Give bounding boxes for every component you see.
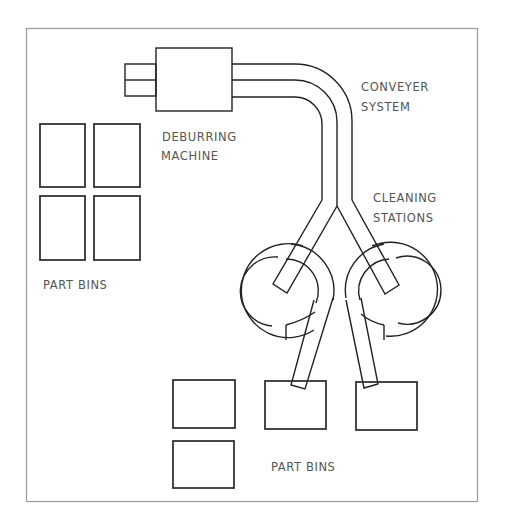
conveyer-center-rail <box>232 80 337 206</box>
deburring-machine-body <box>156 48 232 111</box>
conveyer-label-line2: SYSTEM <box>361 100 410 114</box>
part-bins-left-label: PART BINS <box>43 278 107 292</box>
cleaning-station-left-outer-ring <box>241 244 314 338</box>
conveyer-label-line1: CONVEYER <box>361 80 429 94</box>
cleaning-station-left <box>240 244 334 389</box>
part-bin <box>40 124 85 187</box>
layout-diagram: CONVEYER SYSTEM DEBURRING MACHINE CLEANI… <box>0 0 505 530</box>
cleaning-station-right-inner-ring <box>396 256 441 324</box>
deburring-label-line2: MACHINE <box>161 149 219 163</box>
part-bin <box>40 196 85 260</box>
part-bin <box>173 380 235 428</box>
part-bin <box>356 382 417 430</box>
cleaning-station-right <box>345 242 441 388</box>
part-bin <box>94 196 140 260</box>
conveyer-system <box>232 64 399 294</box>
cleaning-station-right-chute <box>346 298 378 388</box>
conveyer-inner-rail <box>232 97 322 200</box>
part-bin <box>173 441 234 488</box>
cleaning-station-right-outer-ring-left <box>345 244 384 298</box>
cleaning-station-left-inner-ring <box>240 257 278 326</box>
part-bins-left-group <box>40 124 140 260</box>
conveyer-outer-rail <box>232 64 352 200</box>
conveyer-left-branch <box>273 200 337 293</box>
part-bin <box>265 381 326 429</box>
cleaning-label-line1: CLEANING <box>373 191 437 205</box>
deburring-label-line1: DEBURRING <box>162 130 237 144</box>
deburring-machine <box>125 48 232 111</box>
cleaning-label-line2: STATIONS <box>373 211 434 225</box>
part-bin <box>94 124 140 187</box>
part-bins-bottom-label: PART BINS <box>271 460 335 474</box>
cleaning-station-left-chute <box>291 298 333 389</box>
